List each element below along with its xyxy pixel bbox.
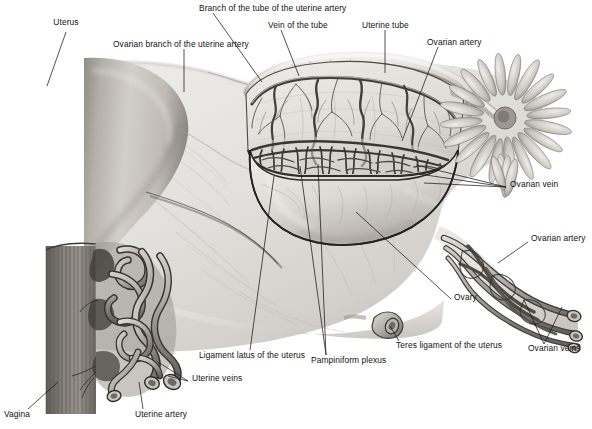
label-branch-of-the-tube-of-the-uterine-artery: Branch of the tube of the uterine artery <box>199 3 346 13</box>
label-ovarian-artery-top: Ovarian artery <box>427 37 481 47</box>
label-pampiniform-plexus: Pampiniform plexus <box>311 355 386 365</box>
label-teres-ligament-of-the-uterus: Teres ligament of the uterus <box>396 340 502 350</box>
label-ovarian-artery-right: Ovarian artery <box>531 233 585 243</box>
illustration-canvas <box>0 0 592 429</box>
label-vein-of-the-tube: Vein of the tube <box>268 20 328 30</box>
label-uterus: Uterus <box>53 17 78 27</box>
label-ligament-latus-of-the-uterus: Ligament latus of the uterus <box>199 350 305 360</box>
anatomy-figure: Uterus Ovarian branch of the uterine art… <box>0 0 592 429</box>
label-ovarian-vein: Ovarian vein <box>510 179 558 189</box>
label-ovary: Ovary <box>454 292 477 302</box>
label-vagina: Vagina <box>4 409 30 419</box>
label-ovarian-veins: Ovarian veins <box>528 343 581 353</box>
label-uterine-tube: Uterine tube <box>362 20 409 30</box>
label-uterine-artery: Uterine artery <box>135 409 187 419</box>
label-ovarian-branch-of-uterine-artery: Ovarian branch of the uterine artery <box>113 39 249 49</box>
label-uterine-veins: Uterine veins <box>192 373 242 383</box>
